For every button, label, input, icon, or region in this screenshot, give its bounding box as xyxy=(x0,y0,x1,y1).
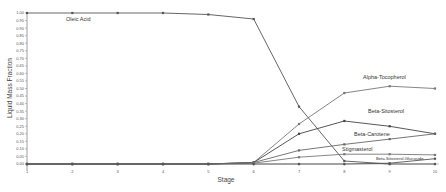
y-tick-label: 0.70 xyxy=(16,56,25,61)
y-tick-label: 0.45 xyxy=(16,93,25,98)
y-tick-label: 0.00 xyxy=(16,161,25,166)
y-tick-label: 0.85 xyxy=(16,33,25,38)
y-tick-label: 0.40 xyxy=(16,101,25,106)
data-marker xyxy=(298,106,300,108)
x-tick-label: 6 xyxy=(253,169,256,174)
data-marker xyxy=(343,120,345,122)
y-tick-label: 0.60 xyxy=(16,71,25,76)
data-marker xyxy=(71,12,73,14)
data-marker xyxy=(343,163,345,165)
y-tick-label: 0.50 xyxy=(16,86,25,91)
data-marker xyxy=(253,18,255,20)
data-marker xyxy=(207,13,209,15)
series-line-beta-sitosterol xyxy=(27,121,435,164)
y-tick-label: 0.10 xyxy=(16,146,25,151)
y-tick-label: 0.90 xyxy=(16,26,25,31)
data-marker xyxy=(434,158,436,160)
series-line-beta-carotene xyxy=(27,134,435,164)
y-tick-label: 1.00 xyxy=(16,10,25,15)
data-marker xyxy=(298,133,300,135)
y-tick-label: 0.05 xyxy=(16,154,25,159)
x-tick-label: 3 xyxy=(117,169,120,174)
series-label: Beta-Sitosterol-Glucoside xyxy=(376,156,424,161)
series-label: Beta-Sitosterol xyxy=(368,108,404,114)
data-marker xyxy=(71,163,73,165)
data-marker xyxy=(389,125,391,127)
data-marker xyxy=(117,12,119,14)
y-tick-label: 0.25 xyxy=(16,124,25,129)
data-marker xyxy=(298,149,300,151)
data-marker xyxy=(389,138,391,140)
series-label: Alpha-Tocopherol xyxy=(363,74,406,80)
data-marker xyxy=(26,163,28,165)
data-marker xyxy=(162,163,164,165)
x-tick-label: 10 xyxy=(433,169,438,174)
series-label: Stigmasterol xyxy=(342,146,373,152)
x-tick-label: 2 xyxy=(71,169,74,174)
data-marker xyxy=(434,133,436,135)
y-tick-label: 0.35 xyxy=(16,109,25,114)
data-marker xyxy=(298,163,300,165)
y-tick-label: 0.20 xyxy=(16,131,25,136)
x-tick-label: 8 xyxy=(343,169,346,174)
y-tick-label: 0.65 xyxy=(16,63,25,68)
data-marker xyxy=(26,12,28,14)
x-tick-label: 5 xyxy=(207,169,210,174)
y-tick-label: 0.80 xyxy=(16,41,25,46)
data-marker xyxy=(253,163,255,165)
y-axis-title: Liquid Mass Fraction xyxy=(6,58,14,118)
series-label: Beta-Carotene xyxy=(354,131,390,137)
data-marker xyxy=(434,163,436,165)
x-tick-label: 9 xyxy=(389,169,392,174)
data-marker xyxy=(389,153,391,155)
series-label: Oleic Acid xyxy=(66,16,90,22)
y-tick-label: 0.95 xyxy=(16,18,25,23)
data-marker xyxy=(298,123,300,125)
data-marker xyxy=(389,162,391,164)
x-axis-title: Stage xyxy=(218,176,235,184)
data-marker xyxy=(207,163,209,165)
x-tick-label: 7 xyxy=(298,169,301,174)
data-marker xyxy=(343,92,345,94)
y-tick-label: 0.55 xyxy=(16,78,25,83)
data-marker xyxy=(298,156,300,158)
y-tick-label: 0.15 xyxy=(16,139,25,144)
y-tick-label: 0.75 xyxy=(16,48,25,53)
data-marker xyxy=(389,85,391,87)
data-marker xyxy=(343,153,345,155)
chart-plot: 0.000.050.100.150.200.250.300.350.400.45… xyxy=(0,0,446,192)
series-line-alpha-tocopherol xyxy=(27,86,435,164)
data-marker xyxy=(117,163,119,165)
data-marker xyxy=(434,154,436,156)
x-tick-label: 1 xyxy=(26,169,29,174)
data-marker xyxy=(162,12,164,14)
line-chart: 0.000.050.100.150.200.250.300.350.400.45… xyxy=(0,0,446,192)
y-tick-label: 0.30 xyxy=(16,116,25,121)
data-marker xyxy=(343,160,345,162)
x-tick-label: 4 xyxy=(162,169,165,174)
data-marker xyxy=(434,87,436,89)
